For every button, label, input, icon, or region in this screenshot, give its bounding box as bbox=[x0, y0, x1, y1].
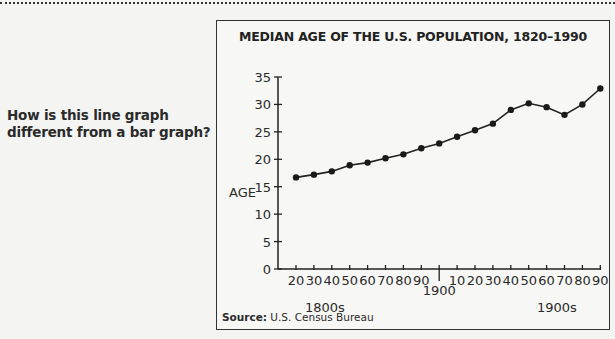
data-point bbox=[347, 162, 353, 168]
x-tick-label: 1900 bbox=[423, 283, 456, 298]
x-axis-ticks: 20304050607080901900102030405060708090 bbox=[288, 265, 609, 298]
x-tick-label: 40 bbox=[324, 273, 341, 288]
y-axis-label: AGE bbox=[229, 185, 256, 200]
x-tick-label: 60 bbox=[538, 273, 555, 288]
data-point bbox=[597, 85, 603, 91]
chart-frame: MEDIAN AGE OF THE U.S. POPULATION, 1820–… bbox=[216, 20, 610, 330]
y-axis-ticks: 05101520253035 bbox=[254, 70, 282, 277]
data-point bbox=[436, 140, 442, 146]
y-tick-label: 30 bbox=[254, 97, 271, 112]
x-tick-label: 70 bbox=[377, 273, 394, 288]
data-point bbox=[472, 127, 478, 133]
y-tick-label: 0 bbox=[263, 262, 271, 277]
line-chart: 05101520253035 2030405060708090190010203… bbox=[1, 1, 615, 339]
data-point bbox=[329, 168, 335, 174]
data-point bbox=[293, 174, 299, 180]
x-tick-label: 80 bbox=[395, 273, 412, 288]
data-point bbox=[561, 112, 567, 118]
y-tick-label: 35 bbox=[254, 70, 271, 85]
x-tick-label: 50 bbox=[520, 273, 537, 288]
data-points bbox=[293, 85, 604, 180]
data-point bbox=[508, 107, 514, 113]
data-point bbox=[579, 101, 585, 107]
source-label: Source: bbox=[222, 311, 267, 323]
data-point bbox=[543, 104, 549, 110]
x-tick-label: 90 bbox=[413, 273, 430, 288]
x-tick-label: 20 bbox=[467, 273, 484, 288]
data-point bbox=[400, 151, 406, 157]
x-tick-label: 70 bbox=[556, 273, 573, 288]
data-point bbox=[454, 134, 460, 140]
x-tick-label: 60 bbox=[359, 273, 376, 288]
source-text: U.S. Census Bureau bbox=[270, 311, 373, 323]
x-tick-label: 20 bbox=[288, 273, 305, 288]
data-line bbox=[296, 89, 600, 178]
y-tick-label: 5 bbox=[263, 235, 271, 250]
x-tick-label: 10 bbox=[449, 273, 466, 288]
x-tick-label: 80 bbox=[574, 273, 591, 288]
x-tick-label: 30 bbox=[485, 273, 502, 288]
question-prompt: How is this line graph different from a … bbox=[7, 107, 217, 141]
data-point bbox=[526, 100, 532, 106]
x-tick-label: 90 bbox=[592, 273, 609, 288]
data-point bbox=[490, 120, 496, 126]
century-label-1900s: 1900s bbox=[537, 300, 577, 315]
y-tick-label: 20 bbox=[254, 152, 271, 167]
x-tick-label: 40 bbox=[503, 273, 520, 288]
data-point bbox=[382, 155, 388, 161]
x-tick-label: 30 bbox=[306, 273, 323, 288]
data-point bbox=[364, 159, 370, 165]
y-tick-label: 25 bbox=[254, 125, 271, 140]
dotted-divider bbox=[0, 2, 615, 4]
chart-title: MEDIAN AGE OF THE U.S. POPULATION, 1820–… bbox=[217, 29, 609, 44]
data-point bbox=[418, 145, 424, 151]
y-tick-label: 15 bbox=[254, 180, 271, 195]
question-line-1: How is this line graph bbox=[7, 107, 217, 124]
y-tick-label: 10 bbox=[254, 207, 271, 222]
data-point bbox=[311, 171, 317, 177]
source-note: Source: U.S. Census Bureau bbox=[222, 311, 374, 323]
question-line-2: different from a bar graph? bbox=[7, 124, 217, 141]
page: How is this line graph different from a … bbox=[0, 0, 615, 339]
x-tick-label: 50 bbox=[341, 273, 358, 288]
